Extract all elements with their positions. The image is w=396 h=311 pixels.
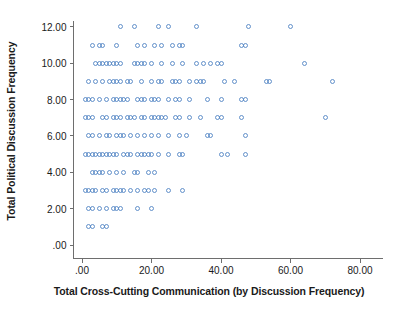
x-tick-label: 60.00 [261,265,321,276]
x-tick-label: 40.00 [191,265,251,276]
y-tick-label: 10.00 [21,58,67,69]
y-tick-label: 12.00 [21,21,67,32]
y-tick-label: 8.00 [21,94,67,105]
x-tick-label: 80.00 [330,265,390,276]
scatter-plot-screenshot: Total Political Discussion Frequency .00… [0,0,396,311]
y-tick-label: 4.00 [21,167,67,178]
x-tick-label: 20.00 [122,265,182,276]
y-tick-label: .00 [21,240,67,251]
x-tick-label: .00 [52,265,112,276]
x-axis-title: Total Cross-Cutting Communication (by Di… [22,285,396,297]
y-tick-label: 6.00 [21,130,67,141]
plot-area: .002.004.006.008.0010.0012.00 .0020.0040… [0,0,396,311]
y-tick-label: 2.00 [21,203,67,214]
